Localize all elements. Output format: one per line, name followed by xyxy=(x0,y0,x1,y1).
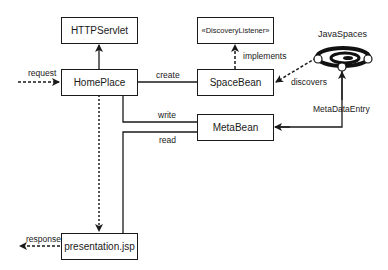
javaspaces-label: JavaSpaces xyxy=(318,29,367,39)
edge-label-implements: implements xyxy=(243,52,286,61)
javaspaces-orbit-icon xyxy=(314,48,372,71)
edge-label-create: create xyxy=(156,71,180,80)
node-httpservlet: HTTPServlet xyxy=(61,17,138,44)
edge-label-response: response xyxy=(26,235,61,244)
node-discoverylistener: «DiscoveryListener» xyxy=(197,17,274,44)
edge-label-discovers: discovers xyxy=(291,78,327,87)
node-homeplace: HomePlace xyxy=(61,69,138,96)
connectors xyxy=(0,0,388,270)
node-presentation: presentation.jsp xyxy=(61,233,138,260)
architecture-diagram: HTTPServlet HomePlace «DiscoveryListener… xyxy=(0,0,388,270)
node-spacebean: SpaceBean xyxy=(197,69,274,96)
edge-label-request: request xyxy=(28,69,56,78)
edge-label-read: read xyxy=(159,136,176,145)
read-connector xyxy=(123,132,197,233)
node-metabean: MetaBean xyxy=(197,114,274,141)
edge-label-write: write xyxy=(158,111,176,120)
edge-label-metadataentry: MetaDataEntry xyxy=(313,105,370,114)
